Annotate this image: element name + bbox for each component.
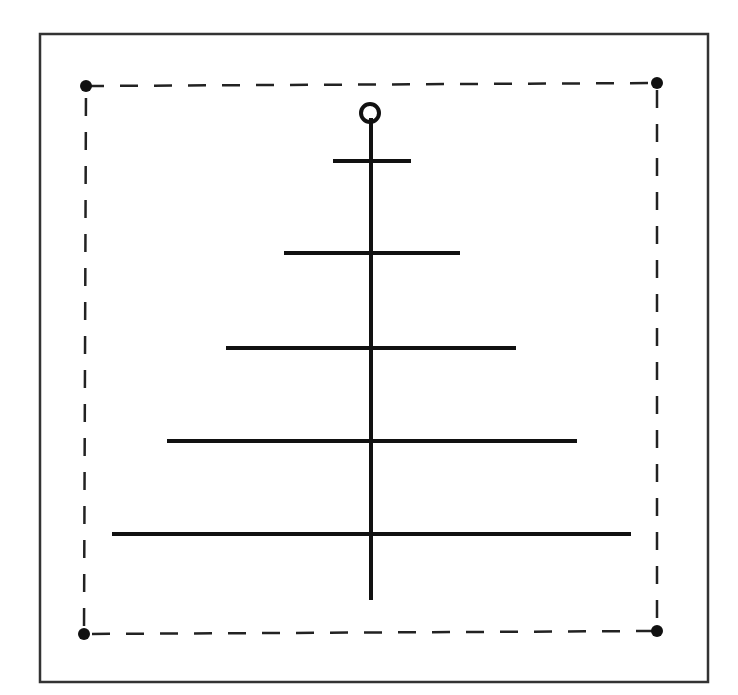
corner-dot-top-left xyxy=(80,80,92,92)
corner-dot-bottom-right xyxy=(651,625,663,637)
corner-dot-top-right xyxy=(651,77,663,89)
diagram-canvas xyxy=(0,0,738,695)
corner-dot-bottom-left xyxy=(78,628,90,640)
outer-frame xyxy=(40,34,708,682)
